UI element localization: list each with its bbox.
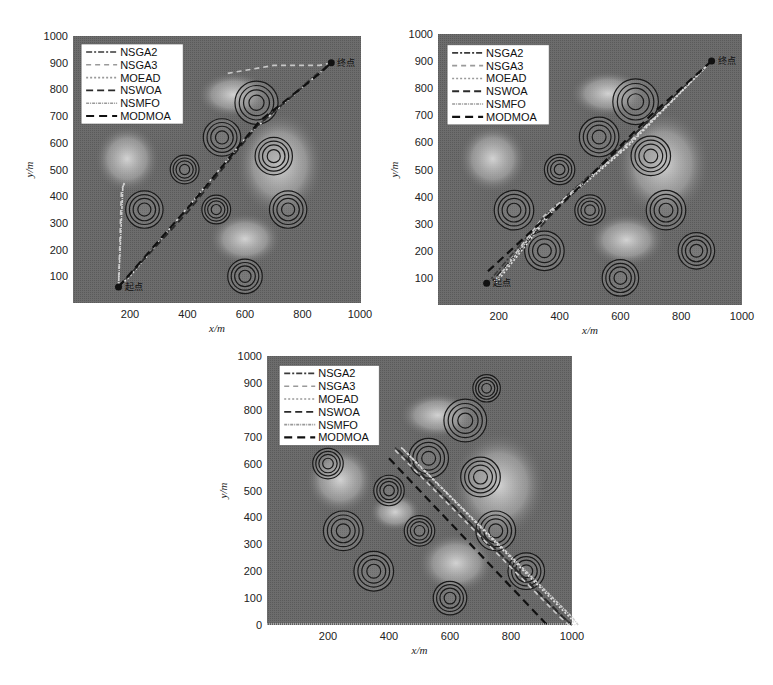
chart-panel-1: 起点终点NSGA2NSGA3MOEADNSWOANSMFOMODMOA20040… xyxy=(23,30,372,334)
legend: NSGA2NSGA3MOEADNSWOANSMFOMODMOA xyxy=(279,365,379,445)
y-tick-label: 500 xyxy=(415,164,433,176)
x-tick-label: 800 xyxy=(672,310,690,322)
end-label: 终点 xyxy=(718,55,736,66)
threat-zone xyxy=(404,516,435,547)
figure-canvas: 起点终点NSGA2NSGA3MOEADNSWOANSMFOMODMOA20040… xyxy=(0,0,773,685)
y-tick-label: 600 xyxy=(244,458,262,470)
start-marker xyxy=(115,283,122,290)
x-tick-label: 200 xyxy=(490,310,508,322)
threat-zone xyxy=(202,195,231,224)
legend-label-modmoa: MODMOA xyxy=(318,431,369,443)
legend-label-nsga3: NSGA3 xyxy=(318,380,355,392)
x-tick-label: 400 xyxy=(550,310,568,322)
y-tick-label: 100 xyxy=(415,272,433,284)
legend: NSGA2NSGA3MOEADNSWOANSMFOMODMOA xyxy=(447,45,549,125)
x-axis-label: x/m xyxy=(411,644,428,656)
threat-zone xyxy=(374,475,405,506)
x-axis-label: x/m xyxy=(208,322,225,334)
y-tick-label: 800 xyxy=(415,82,433,94)
legend-label-modmoa: MODMOA xyxy=(486,111,537,123)
legend-label-nswoa: NSWOA xyxy=(318,406,360,418)
y-tick-label: 100 xyxy=(50,270,68,282)
end-marker xyxy=(328,59,335,66)
legend-label-nsga2: NSGA2 xyxy=(486,47,523,59)
legend-label-nswoa: NSWOA xyxy=(486,85,528,97)
end-marker xyxy=(708,58,715,65)
chart-panel-3: NSGA2NSGA3MOEADNSWOANSMFOMODMOA200400600… xyxy=(217,350,584,656)
threat-zone xyxy=(235,81,278,124)
threat-zone xyxy=(409,438,449,478)
threat-zone xyxy=(602,260,638,296)
y-tick-label: 600 xyxy=(415,136,433,148)
x-tick-label: 400 xyxy=(178,308,196,320)
x-tick-label: 1000 xyxy=(560,630,584,642)
start-label: 起点 xyxy=(125,282,143,292)
y-tick-label: 400 xyxy=(244,511,262,523)
y-tick-label: 400 xyxy=(50,190,68,202)
legend-label-nsga3: NSGA3 xyxy=(486,60,523,72)
legend-label-nsmfo: NSMFO xyxy=(318,419,358,431)
legend-label-nsmfo: NSMFO xyxy=(486,98,526,110)
end-label: 终点 xyxy=(337,57,355,68)
x-tick-label: 400 xyxy=(380,630,398,642)
x-tick-label: 600 xyxy=(236,308,254,320)
legend: NSGA2NSGA3MOEADNSWOANSMFOMODMOA xyxy=(81,44,183,124)
y-tick-label: 700 xyxy=(244,431,262,443)
threat-zone xyxy=(203,119,240,156)
y-axis-label: y/m xyxy=(388,162,400,179)
chart-panel-2: 起点终点NSGA2NSGA3MOEADNSWOANSMFOMODMOA20040… xyxy=(388,28,754,336)
y-tick-label: 1000 xyxy=(409,28,433,40)
y-axis-label: y/m xyxy=(23,162,35,179)
start-marker xyxy=(483,280,490,287)
legend-label-nsga3: NSGA3 xyxy=(120,59,157,71)
terrain-peak xyxy=(459,125,527,193)
threat-zone xyxy=(579,117,619,157)
x-tick-label: 200 xyxy=(121,308,139,320)
y-tick-label: 200 xyxy=(415,245,433,257)
y-tick-label: 900 xyxy=(244,377,262,389)
y-tick-label: 900 xyxy=(415,55,433,67)
x-tick-label: 800 xyxy=(293,308,311,320)
y-tick-label: 700 xyxy=(50,110,68,122)
y-tick-label: 100 xyxy=(244,592,262,604)
threat-zone xyxy=(461,457,501,497)
threat-zone xyxy=(444,399,487,442)
threat-zone xyxy=(646,190,686,230)
threat-zone xyxy=(494,190,534,230)
y-tick-label: 1000 xyxy=(44,30,68,42)
y-tick-label: 200 xyxy=(244,565,262,577)
y-tick-label: 500 xyxy=(50,164,68,176)
terrain-peak xyxy=(95,125,159,192)
threat-zone xyxy=(631,136,671,176)
x-tick-label: 600 xyxy=(611,310,629,322)
threat-zone xyxy=(313,448,344,479)
legend-label-moead: MOEAD xyxy=(318,393,358,405)
x-axis-label: x/m xyxy=(581,324,598,336)
x-tick-label: 800 xyxy=(502,630,520,642)
threat-zone xyxy=(678,233,714,269)
threat-zone xyxy=(228,259,263,294)
y-tick-label: 800 xyxy=(50,83,68,95)
threat-zone xyxy=(323,511,363,551)
x-tick-label: 1000 xyxy=(730,310,754,322)
y-tick-label: 300 xyxy=(244,538,262,550)
y-tick-label: 900 xyxy=(50,57,68,69)
threat-zone xyxy=(126,191,163,228)
legend-label-nsga2: NSGA2 xyxy=(120,46,157,58)
threat-zone xyxy=(476,511,516,551)
legend-label-nsga2: NSGA2 xyxy=(318,367,355,379)
threat-zone xyxy=(170,155,199,184)
y-tick-label: 1000 xyxy=(238,350,262,362)
legend-label-moead: MOEAD xyxy=(486,72,526,84)
y-tick-label: 200 xyxy=(50,244,68,256)
y-tick-label: 0 xyxy=(256,619,262,631)
y-tick-label: 700 xyxy=(415,109,433,121)
threat-zone xyxy=(575,195,605,225)
y-tick-label: 600 xyxy=(50,137,68,149)
y-axis-label: y/m xyxy=(217,483,229,500)
threat-zone xyxy=(433,581,467,615)
threat-zone xyxy=(354,551,394,591)
threat-zone xyxy=(255,137,292,174)
threat-zone xyxy=(544,154,574,184)
start-label: 起点 xyxy=(493,278,511,288)
